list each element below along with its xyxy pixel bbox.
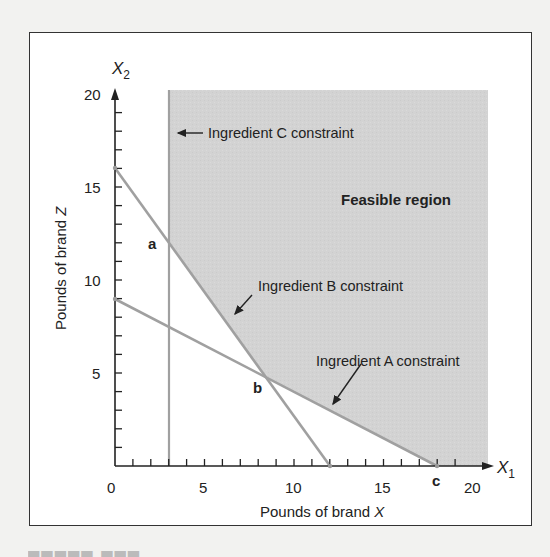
x-axis-title: Pounds of brand X: [260, 503, 385, 520]
figure-caption-cropped: ▀▀▀▀▀ ▀▀▀: [28, 551, 198, 557]
corner-point-c: c: [432, 472, 440, 489]
ingredient-a-label: Ingredient A constraint: [316, 353, 460, 369]
tick-x-10: 10: [285, 479, 302, 496]
intercept-b-x: [328, 464, 332, 468]
corner-point-b: b: [253, 379, 262, 396]
x-axis-symbol: X1: [496, 458, 515, 481]
corner-point-a: a: [148, 235, 157, 252]
tick-x-0: 0: [107, 479, 115, 496]
feasible-region-label: Feasible region: [341, 191, 451, 208]
tick-x-20: 20: [464, 479, 481, 496]
y-axis-title: Pounds of brand Z: [52, 206, 69, 330]
tick-y-10: 10: [84, 272, 101, 289]
tick-x-5: 5: [199, 479, 207, 496]
tick-y-5: 5: [92, 365, 100, 382]
tick-y-20: 20: [84, 86, 101, 103]
tick-x-15: 15: [374, 479, 391, 496]
ingredient-c-label: Ingredient C constraint: [208, 125, 354, 141]
y-ticks: [115, 113, 122, 448]
linear-programming-chart: 0 5 10 15 20 5 10 15 20 X2 X1 Pounds of …: [0, 0, 550, 557]
intercept-a-x: [435, 464, 439, 468]
intercept-a-y: [113, 297, 117, 301]
y-axis-symbol: X2: [111, 59, 130, 82]
y-axis-arrow-icon: [111, 88, 119, 100]
x-ticks: [133, 459, 455, 466]
ingredient-b-label: Ingredient B constraint: [258, 278, 403, 294]
tick-y-15: 15: [84, 179, 101, 196]
intercept-b-y: [113, 166, 117, 170]
